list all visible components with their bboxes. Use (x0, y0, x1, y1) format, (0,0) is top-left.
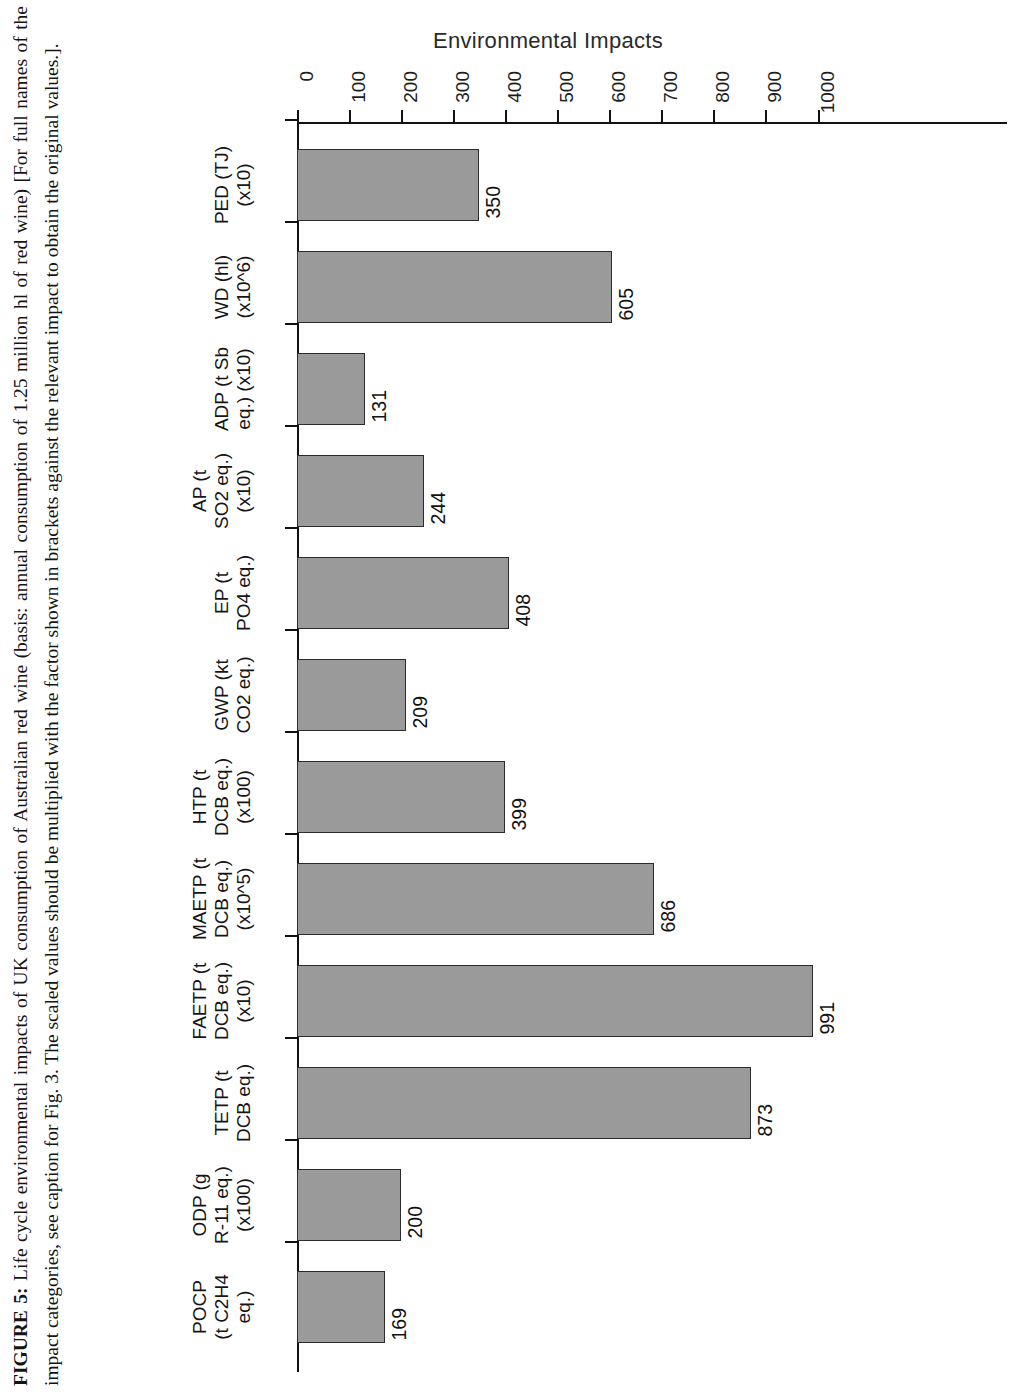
bar-row: 991 (297, 965, 1009, 1037)
bar (297, 149, 479, 221)
bar-value-label: 605 (614, 288, 637, 321)
bar-row: 873 (297, 1067, 1009, 1139)
bar (297, 1271, 385, 1343)
bar (297, 557, 509, 629)
bar-row: 244 (297, 455, 1009, 527)
category-axis-tick (285, 1037, 297, 1039)
category-axis-tick (285, 527, 297, 529)
bar-value-label: 408 (512, 594, 535, 627)
bar-row: 408 (297, 557, 1009, 629)
bar-row: 131 (297, 353, 1009, 425)
bar (297, 863, 654, 935)
bar-value-label: 991 (815, 1002, 838, 1035)
category-axis-tick (285, 629, 297, 631)
bar-value-label: 131 (368, 390, 391, 423)
bar-value-label: 350 (482, 186, 505, 219)
bar (297, 1169, 401, 1241)
bar-row: 200 (297, 1169, 1009, 1241)
category-label-line: (t C2H4 (211, 1212, 233, 1392)
bar (297, 965, 813, 1037)
category-label: POCP(t C2H4eq.) (189, 1212, 255, 1392)
bar (297, 353, 365, 425)
category-label-line: eq.) (233, 1212, 255, 1392)
bar-row: 605 (297, 251, 1009, 323)
value-axis-title: Environmental Impacts (398, 28, 698, 54)
bar-chart: Environmental Impacts 010020030040050060… (130, 0, 849, 1392)
category-axis-tick (285, 119, 297, 121)
bar (297, 761, 505, 833)
bar-row: 169 (297, 1271, 1009, 1343)
bar-value-label: 200 (404, 1206, 427, 1239)
category-axis-tick (285, 731, 297, 733)
category-axis-tick (285, 425, 297, 427)
figure-caption-label: FIGURE 5: (10, 1287, 31, 1386)
figure-caption: FIGURE 5: Life cycle environmental impac… (5, 6, 115, 1386)
bar-row: 686 (297, 863, 1009, 935)
bar-row: 350 (297, 149, 1009, 221)
bar-value-label: 686 (657, 900, 680, 933)
bar-value-label: 399 (507, 798, 530, 831)
category-axis-tick (285, 221, 297, 223)
bar (297, 455, 424, 527)
category-axis-tick (285, 935, 297, 937)
bar-value-label: 209 (408, 696, 431, 729)
category-label-line: FAETP (t (189, 906, 211, 1096)
bars-container: 350605131244408209399686991873200169 (297, 122, 1009, 1372)
bar-row: 209 (297, 659, 1009, 731)
bar (297, 659, 406, 731)
category-axis-tick (285, 1139, 297, 1141)
bar-row: 399 (297, 761, 1009, 833)
bar (297, 1067, 751, 1139)
category-axis-tick (285, 833, 297, 835)
category-axis-tick (285, 323, 297, 325)
category-label-line: POCP (189, 1212, 211, 1392)
bar-value-label: 169 (387, 1308, 410, 1341)
category-label-line: AP (t (189, 396, 211, 586)
category-axis-tick (285, 1241, 297, 1243)
bar (297, 251, 612, 323)
bar-value-label: 244 (427, 492, 450, 525)
bar-value-label: 873 (754, 1104, 777, 1137)
figure-caption-container: FIGURE 5: Life cycle environmental impac… (0, 0, 120, 1392)
figure-caption-text: Life cycle environmental impacts of UK c… (10, 6, 62, 1386)
